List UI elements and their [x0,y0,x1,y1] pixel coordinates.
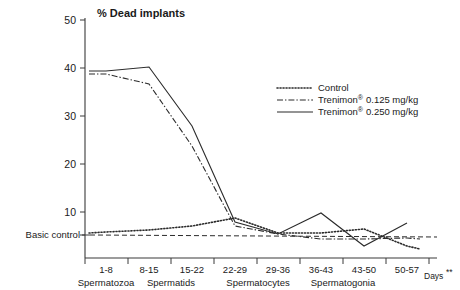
x-tick-label-22-29: 22-29 [223,264,247,275]
x-tick-label-15-22: 15-22 [180,264,204,275]
legend-registered-icon-0125: ® [358,94,364,101]
legend-label-trenimon-0125: Trenimon®0.125 mg/kg [318,94,418,106]
x-axis-title-footnote-marks: ** [446,267,453,277]
stage-label-spermatozoa: Spermatozoa [78,277,135,288]
legend-registered-icon-0250: ® [358,106,364,113]
y-tick-label-50: 50 [64,14,76,26]
legend-dose-0125: 0.125 mg/kg [366,94,418,105]
legend-dose-0250: 0.250 mg/kg [366,106,418,117]
x-axis-title: Days [424,271,443,281]
dead-implants-line-chart: 50 40 30 20 10 % Dead implants Basic con… [0,0,460,290]
x-tick-label-1-8: 1-8 [99,264,113,275]
y-tick-label-10: 10 [64,206,76,218]
chart-background [0,0,460,290]
basic-control-label: Basic control [26,229,80,240]
stage-label-spermatocytes: Spermatocytes [226,277,290,288]
stage-label-spermatids: Spermatids [147,277,195,288]
legend-label-control: Control [318,82,349,93]
x-tick-label-50-57: 50-57 [395,264,419,275]
x-tick-label-8-15: 8-15 [139,264,158,275]
x-tick-label-29-36: 29-36 [266,264,290,275]
y-tick-label-40: 40 [64,62,76,74]
x-tick-label-43-50: 43-50 [352,264,376,275]
x-tick-label-36-43: 36-43 [309,264,333,275]
y-tick-label-30: 30 [64,110,76,122]
stage-label-spermatogonia: Spermatogonia [311,277,376,288]
legend-drug-0250: Trenimon [318,106,358,117]
chart-title: % Dead implants [97,7,185,19]
y-tick-label-20: 20 [64,158,76,170]
legend-drug-0125: Trenimon [318,94,358,105]
legend-label-trenimon-0250: Trenimon®0.250 mg/kg [318,106,418,118]
